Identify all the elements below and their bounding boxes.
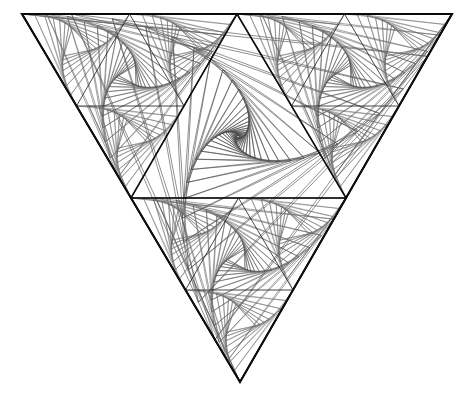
fractal-canvas <box>0 0 471 399</box>
fractal-figure-root <box>0 0 471 399</box>
